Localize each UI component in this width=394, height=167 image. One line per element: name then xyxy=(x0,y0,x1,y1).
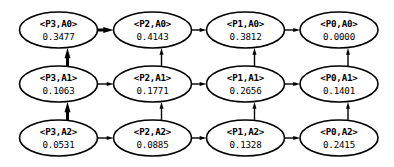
edge-P1-A2-to-P1-A1 xyxy=(253,102,257,120)
edge-P0-A2-to-P0-A1 xyxy=(346,102,350,120)
node-P3-A0[interactable]: <P3,A0>0.3477 xyxy=(20,12,98,48)
node-value: 0.3477 xyxy=(43,31,75,42)
node-label: <P3,A1> xyxy=(40,72,78,83)
node-value: 0.2656 xyxy=(230,85,262,96)
node-value: 0.1401 xyxy=(323,85,355,96)
edge-P2-A2-to-P2-A1 xyxy=(160,102,164,120)
node-value: 0.1063 xyxy=(43,85,75,96)
node-label: <P0,A0> xyxy=(320,18,358,29)
state-value-graph: <P3,A0>0.3477<P2,A0>0.4143<P1,A0>0.3812<… xyxy=(0,0,394,167)
node-P1-A1[interactable]: <P1,A1>0.2656 xyxy=(207,66,285,102)
node-label: <P3,A2> xyxy=(40,126,78,137)
node-value: 0.0531 xyxy=(43,139,75,150)
edge-P1-A2-to-P0-A2 xyxy=(285,136,301,140)
node-label: <P0,A2> xyxy=(320,126,358,137)
node-value: 0.3812 xyxy=(230,31,262,42)
edge-P2-A1-to-P1-A1 xyxy=(192,82,207,86)
node-P0-A1[interactable]: <P0,A1>0.1401 xyxy=(300,66,378,102)
node-P2-A2[interactable]: <P2,A2>0.0885 xyxy=(114,120,192,156)
node-value: 0.1328 xyxy=(230,139,262,150)
edge-P3-A2-to-P2-A2 xyxy=(98,136,114,140)
node-P3-A2[interactable]: <P3,A2>0.0531 xyxy=(20,120,98,156)
edge-P3-A0-to-P2-A0 xyxy=(98,27,114,33)
node-value: 0.4143 xyxy=(137,31,169,42)
node-P3-A1[interactable]: <P3,A1>0.1063 xyxy=(20,66,98,102)
edge-P1-A1-to-P0-A1 xyxy=(285,82,301,86)
edge-P2-A2-to-P1-A2 xyxy=(192,136,207,140)
node-P1-A0[interactable]: <P1,A0>0.3812 xyxy=(207,12,285,48)
node-value: 0.2415 xyxy=(323,139,355,150)
edge-P3-A1-to-P2-A1 xyxy=(98,82,114,86)
edge-P3-A1-to-P3-A0 xyxy=(65,48,71,66)
edge-P2-A1-to-P2-A0 xyxy=(160,48,164,66)
node-label: <P2,A1> xyxy=(134,72,172,83)
node-value: 0.0885 xyxy=(137,139,169,150)
diagram-canvas: <P3,A0>0.3477<P2,A0>0.4143<P1,A0>0.3812<… xyxy=(0,0,394,167)
node-label: <P1,A1> xyxy=(227,72,265,83)
node-label: <P2,A2> xyxy=(134,126,172,137)
edge-P0-A1-to-P0-A0 xyxy=(346,48,350,66)
node-P2-A0[interactable]: <P2,A0>0.4143 xyxy=(114,12,192,48)
node-P2-A1[interactable]: <P2,A1>0.1771 xyxy=(114,66,192,102)
edge-P3-A2-to-P3-A1 xyxy=(65,102,71,120)
node-label: <P1,A0> xyxy=(227,18,265,29)
edge-P1-A0-to-P0-A0 xyxy=(285,28,301,32)
node-label: <P1,A2> xyxy=(227,126,265,137)
node-label: <P0,A1> xyxy=(320,72,358,83)
node-value: 0.1771 xyxy=(137,85,169,96)
node-label: <P3,A0> xyxy=(40,18,78,29)
node-P1-A2[interactable]: <P1,A2>0.1328 xyxy=(207,120,285,156)
node-label: <P2,A0> xyxy=(134,18,172,29)
edge-P1-A1-to-P1-A0 xyxy=(253,48,257,66)
node-value: 0.0000 xyxy=(323,31,355,42)
node-P0-A0[interactable]: <P0,A0>0.0000 xyxy=(300,12,378,48)
node-P0-A2[interactable]: <P0,A2>0.2415 xyxy=(300,120,378,156)
edge-P2-A0-to-P1-A0 xyxy=(192,28,207,32)
